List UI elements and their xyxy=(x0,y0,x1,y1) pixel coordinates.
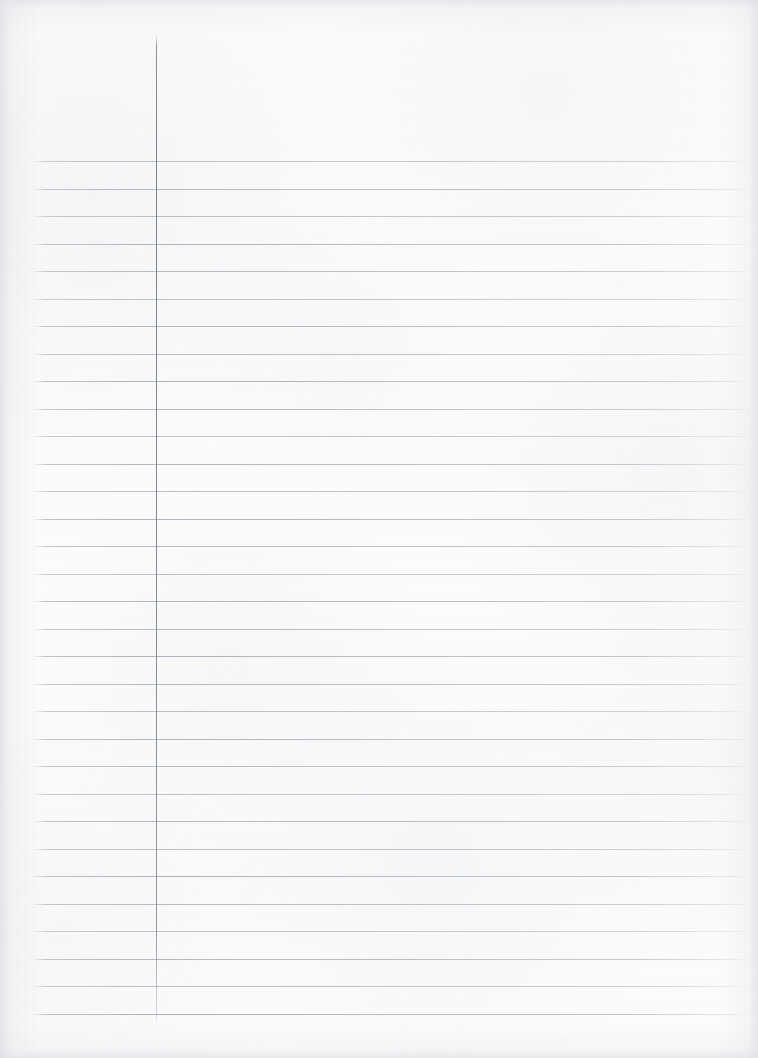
writing-area[interactable] xyxy=(0,0,758,1058)
notebook-page xyxy=(0,0,758,1058)
